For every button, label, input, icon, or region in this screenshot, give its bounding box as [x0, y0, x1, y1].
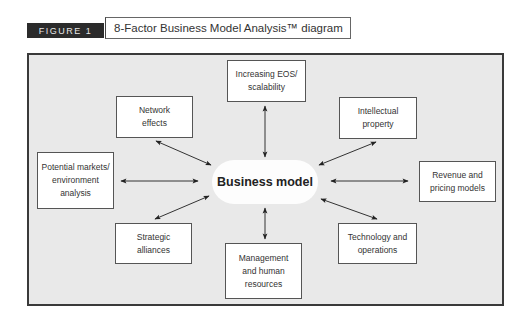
node-scalability: Increasing EOS/ scalability: [227, 60, 306, 102]
node-network-effects: Network effects: [116, 96, 193, 138]
arrow-network: [156, 141, 211, 165]
node-potential-markets: Potential markets/ environment analysis: [37, 152, 114, 209]
node-intellectual-property: Intellectual property: [339, 97, 417, 139]
center-node-business-model: Business model: [212, 160, 318, 204]
arrow-technology: [321, 199, 377, 219]
node-revenue-pricing: Revenue and pricing models: [419, 161, 496, 202]
arrow-intellectual: [319, 142, 376, 165]
node-management-hr: Management and human resources: [225, 243, 302, 299]
node-strategic-alliances: Strategic alliances: [115, 223, 192, 264]
node-technology-operations: Technology and operations: [338, 223, 417, 264]
arrow-strategic: [155, 196, 209, 219]
